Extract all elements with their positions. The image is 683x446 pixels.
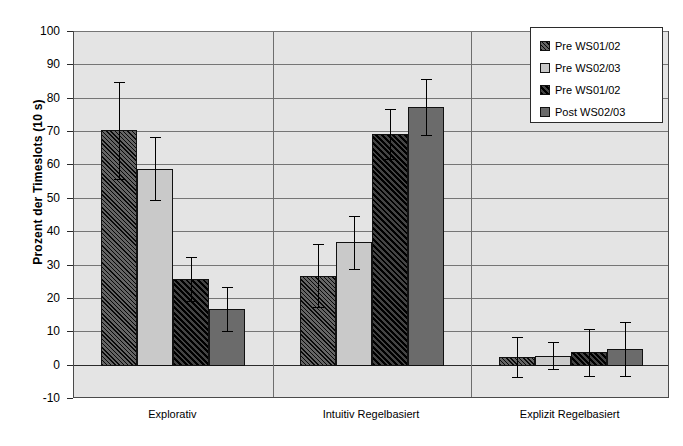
error-bar-cap-lower	[313, 307, 324, 308]
bar-chart: Prozent der Timeslots (10 s) 10090807060…	[0, 0, 683, 446]
error-bar-line	[119, 82, 120, 179]
error-bar-line	[354, 216, 355, 269]
error-bar-cap-lower	[548, 369, 559, 370]
error-bar-cap-upper	[150, 137, 161, 138]
error-bar-cap-upper	[186, 257, 197, 258]
error-bar-line	[553, 342, 554, 369]
error-bar-cap-lower	[421, 135, 432, 136]
error-bar-cap-lower	[150, 200, 161, 201]
error-bar-cap-lower	[222, 331, 233, 332]
error-bar-cap-upper	[584, 329, 595, 330]
category-separator	[471, 32, 472, 397]
error-bar-line	[191, 257, 192, 300]
legend-swatch-icon	[540, 107, 550, 117]
error-bar-line	[625, 322, 626, 375]
legend-item: Pre WS02/03	[540, 57, 662, 79]
error-bar-cap-upper	[114, 82, 125, 83]
legend-swatch-icon	[540, 41, 550, 51]
error-bar-cap-lower	[620, 376, 631, 377]
y-axis-tick-label: 30	[14, 259, 60, 271]
y-axis-tick-label: 50	[14, 192, 60, 204]
error-bar-line	[390, 109, 391, 159]
error-bar-cap-lower	[349, 269, 360, 270]
y-axis-tick-label: 100	[14, 25, 60, 37]
legend-swatch-icon	[540, 63, 550, 73]
error-bar-line	[517, 337, 518, 377]
x-axis-tick-label: Explorativ	[73, 408, 272, 420]
error-bar-cap-upper	[349, 216, 360, 217]
y-axis-tick-label: 70	[14, 125, 60, 137]
error-bar-cap-lower	[114, 179, 125, 180]
bar	[372, 134, 408, 366]
legend-item-label: Pre WS01/02	[555, 85, 620, 96]
legend-item-label: Pre WS01/02	[555, 41, 620, 52]
y-axis-tick-label: 90	[14, 58, 60, 70]
y-axis-tick-label: 60	[14, 158, 60, 170]
error-bar-cap-upper	[620, 322, 631, 323]
legend: Pre WS01/02Pre WS02/03Pre WS01/02Post WS…	[530, 27, 663, 123]
legend-swatch-icon	[540, 85, 550, 95]
error-bar-line	[227, 287, 228, 330]
error-bar-cap-lower	[512, 377, 523, 378]
error-bar-cap-upper	[512, 337, 523, 338]
error-bar-line	[589, 329, 590, 376]
legend-item: Pre WS01/02	[540, 79, 662, 101]
y-axis-tick-label: -10	[14, 392, 60, 404]
y-axis-tick-label: 0	[14, 359, 60, 371]
error-bar-cap-upper	[313, 244, 324, 245]
error-bar-line	[426, 79, 427, 136]
error-bar-cap-lower	[385, 159, 396, 160]
gridline	[74, 131, 668, 132]
error-bar-cap-upper	[548, 342, 559, 343]
y-axis-tick-label: 80	[14, 92, 60, 104]
legend-item-label: Post WS02/03	[555, 107, 625, 118]
error-bar-line	[318, 244, 319, 307]
error-bar-cap-upper	[222, 287, 233, 288]
y-axis-tick-label: 10	[14, 325, 60, 337]
x-axis-tick-label: Explizit Regelbasiert	[470, 408, 669, 420]
error-bar-cap-lower	[584, 376, 595, 377]
error-bar-cap-lower	[186, 301, 197, 302]
error-bar-cap-upper	[385, 109, 396, 110]
x-axis-tick-label: Intuitiv Regelbasiert	[272, 408, 471, 420]
legend-item: Pre WS01/02	[540, 35, 662, 57]
y-axis-tick-label: 40	[14, 225, 60, 237]
legend-item-label: Pre WS02/03	[555, 63, 620, 74]
gridline	[74, 164, 668, 165]
y-axis-tick-label: 20	[14, 292, 60, 304]
error-bar-line	[155, 137, 156, 200]
error-bar-cap-upper	[421, 79, 432, 80]
y-axis-tick-mark	[67, 398, 73, 399]
legend-item: Post WS02/03	[540, 101, 662, 123]
bar	[408, 107, 444, 366]
category-separator	[273, 32, 274, 397]
